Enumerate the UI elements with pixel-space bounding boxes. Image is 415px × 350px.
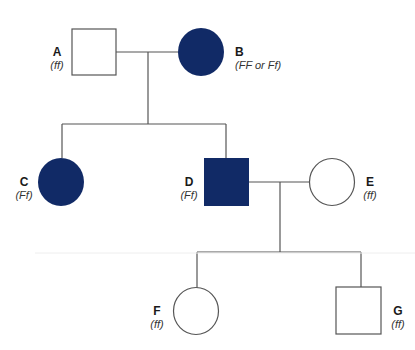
label-f: F (ff): [127, 305, 187, 331]
label-f-genotype: (ff): [127, 318, 187, 331]
label-e-id: E: [340, 176, 400, 189]
label-g: G (ff): [368, 305, 415, 331]
label-a-genotype: (ff): [27, 59, 87, 72]
label-g-id: G: [368, 305, 415, 318]
label-c: C (Ff): [0, 176, 54, 202]
label-c-id: C: [0, 176, 54, 189]
label-b: B (FF or Ff): [235, 46, 315, 72]
label-f-id: F: [127, 305, 187, 318]
label-a-id: A: [27, 46, 87, 59]
label-e-genotype: (ff): [340, 189, 400, 202]
individual-b-female-circle-affected: [178, 28, 224, 76]
label-b-id: B: [235, 46, 315, 59]
label-d: D (Ff): [159, 176, 219, 202]
label-d-genotype: (Ff): [159, 189, 219, 202]
label-c-genotype: (Ff): [0, 189, 54, 202]
label-g-genotype: (ff): [368, 318, 415, 331]
label-e: E (ff): [340, 176, 400, 202]
label-d-id: D: [159, 176, 219, 189]
label-a: A (ff): [27, 46, 87, 72]
label-b-genotype: (FF or Ff): [235, 59, 315, 72]
